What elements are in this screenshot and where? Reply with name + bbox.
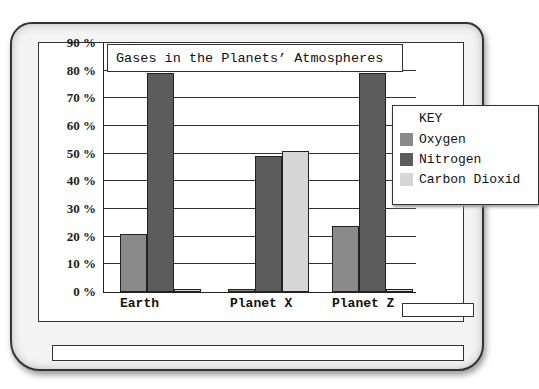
legend: KEY Oxygen Nitrogen Carbon Dioxid xyxy=(392,105,539,205)
carbon-dioxide-swatch-icon xyxy=(400,173,413,186)
bar-carbon-dioxide xyxy=(174,289,201,292)
y-tick-label: 30 % xyxy=(48,201,96,217)
plot-area xyxy=(103,43,416,293)
legend-item-carbon-dioxide: Carbon Dioxid xyxy=(400,171,520,187)
y-tick-label: 70 % xyxy=(48,90,96,106)
oxygen-swatch-icon xyxy=(400,133,413,146)
y-tick-label: 90 % xyxy=(48,35,96,51)
bar-nitrogen xyxy=(147,73,174,292)
y-tick-label: 20 % xyxy=(48,229,96,245)
x-tick-label: Planet X xyxy=(230,296,292,311)
legend-item-nitrogen: Nitrogen xyxy=(400,151,481,167)
y-tick-label: 60 % xyxy=(48,118,96,134)
legend-label: Nitrogen xyxy=(419,152,481,167)
bar-oxygen xyxy=(228,289,255,292)
bar-oxygen xyxy=(120,234,147,292)
legend-label: Oxygen xyxy=(419,132,466,147)
chart-title: Gases in the Planets’ Atmospheres xyxy=(107,44,403,72)
legend-title: KEY xyxy=(419,111,442,126)
y-tick-label: 80 % xyxy=(48,63,96,79)
y-tick-label: 0 % xyxy=(48,284,96,300)
bar-carbon-dioxide xyxy=(386,289,413,292)
bar-nitrogen xyxy=(255,156,282,292)
y-tick-label: 40 % xyxy=(48,173,96,189)
y-tick-label: 50 % xyxy=(48,146,96,162)
y-tick-label: 10 % xyxy=(48,256,96,272)
frame-side-tab xyxy=(402,303,474,317)
x-tick-label: Earth xyxy=(120,296,159,311)
nitrogen-swatch-icon xyxy=(400,153,413,166)
frame-bottom-slot xyxy=(52,345,464,361)
x-tick-label: Planet Z xyxy=(332,296,394,311)
bar-nitrogen xyxy=(359,73,386,292)
bar-oxygen xyxy=(332,226,359,292)
legend-item-oxygen: Oxygen xyxy=(400,131,466,147)
gridline xyxy=(104,42,416,43)
legend-label: Carbon Dioxid xyxy=(419,172,520,187)
bar-carbon-dioxide xyxy=(282,151,309,292)
